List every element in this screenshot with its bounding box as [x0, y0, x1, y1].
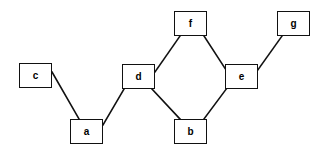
- edge-a-d: [103, 89, 124, 125]
- node-label-f: f: [189, 19, 192, 29]
- edge-c-a: [52, 72, 79, 119]
- graph-node-f[interactable]: f: [174, 11, 207, 36]
- diagram-canvas: cadfbeg: [0, 0, 323, 155]
- graph-node-c[interactable]: c: [19, 63, 52, 88]
- node-label-d: d: [135, 72, 141, 82]
- graph-node-a[interactable]: a: [70, 119, 103, 144]
- graph-node-e[interactable]: e: [225, 64, 258, 89]
- edge-d-b: [152, 89, 180, 119]
- node-label-b: b: [187, 127, 193, 137]
- node-label-g: g: [290, 19, 296, 29]
- edge-d-f: [155, 36, 180, 72]
- node-label-e: e: [239, 72, 245, 82]
- graph-node-b[interactable]: b: [174, 119, 207, 144]
- node-label-c: c: [33, 71, 39, 81]
- graph-node-d[interactable]: d: [122, 64, 155, 89]
- edge-b-e: [204, 88, 227, 119]
- node-label-a: a: [84, 127, 90, 137]
- graph-node-g[interactable]: g: [277, 11, 310, 36]
- edge-e-g: [255, 36, 282, 74]
